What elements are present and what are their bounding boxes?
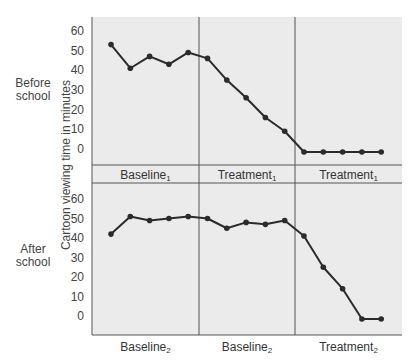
data-point bbox=[359, 149, 365, 155]
data-point bbox=[340, 149, 346, 155]
y-tick-label: 30 bbox=[62, 84, 84, 96]
data-point bbox=[166, 61, 172, 67]
phase-label-bottom-1: Baseline2 bbox=[92, 340, 199, 355]
y-tick-label: 40 bbox=[62, 64, 84, 76]
data-point bbox=[263, 222, 269, 228]
data-point bbox=[108, 231, 114, 237]
data-point bbox=[224, 77, 230, 83]
phase-label-top-2: Treatment1 bbox=[199, 168, 295, 183]
data-point bbox=[128, 214, 134, 220]
y-tick-label: 20 bbox=[62, 271, 84, 283]
y-tick-label: 50 bbox=[62, 213, 84, 225]
data-point bbox=[243, 220, 249, 226]
y-tick-label: 60 bbox=[62, 25, 84, 37]
data-point bbox=[205, 56, 211, 62]
phase-label-bottom-3: Treatment2 bbox=[295, 340, 402, 355]
data-point bbox=[108, 42, 114, 48]
data-point bbox=[147, 218, 153, 224]
data-point bbox=[282, 218, 288, 224]
data-point bbox=[359, 316, 365, 322]
data-point bbox=[378, 149, 384, 155]
data-point bbox=[185, 214, 191, 220]
y-tick-label: 50 bbox=[62, 45, 84, 57]
data-point bbox=[378, 316, 384, 322]
data-point bbox=[340, 286, 346, 292]
y-tick-label: 30 bbox=[62, 252, 84, 264]
y-tick-label: 10 bbox=[62, 291, 84, 303]
data-point bbox=[128, 65, 134, 71]
y-tick-label: 40 bbox=[62, 232, 84, 244]
data-point bbox=[205, 216, 211, 222]
phase-label-top-3: Treatment1 bbox=[295, 168, 402, 183]
y-tick-label: 60 bbox=[62, 193, 84, 205]
data-point bbox=[224, 225, 230, 231]
y-tick-label: 0 bbox=[62, 310, 84, 322]
y-tick-label: 20 bbox=[62, 104, 84, 116]
data-point bbox=[263, 115, 269, 121]
phase-label-top-1: Baseline1 bbox=[92, 168, 199, 183]
data-point bbox=[243, 95, 249, 101]
data-point bbox=[185, 50, 191, 56]
data-point bbox=[321, 149, 327, 155]
data-point bbox=[301, 149, 307, 155]
y-tick-label: 10 bbox=[62, 123, 84, 135]
data-point bbox=[301, 233, 307, 239]
data-point bbox=[147, 54, 153, 60]
phase-label-bottom-2: Baseline2 bbox=[199, 340, 295, 355]
data-point bbox=[321, 264, 327, 270]
data-point bbox=[166, 216, 172, 222]
y-tick-label: 0 bbox=[62, 143, 84, 155]
data-point bbox=[282, 128, 288, 134]
